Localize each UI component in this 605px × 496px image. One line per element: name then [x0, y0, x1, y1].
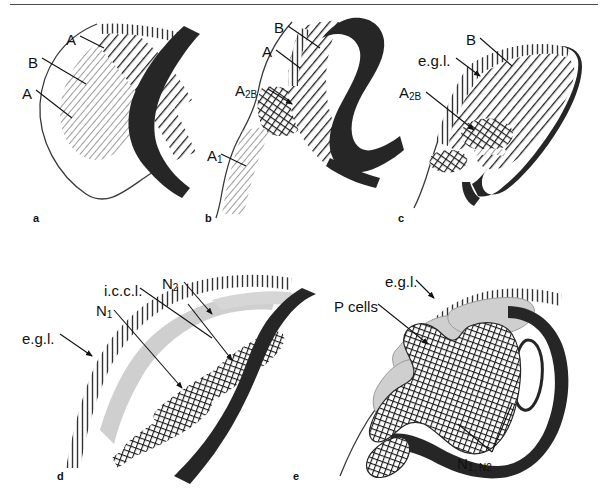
panel-e-cross-n-tail — [367, 437, 410, 477]
panel-letter-d: d — [57, 470, 64, 482]
panel-d-leader-egl — [60, 334, 92, 356]
panel-d-label-N1: N1 — [96, 303, 112, 320]
panel-b-solid-band — [322, 18, 404, 173]
panel-b-label-A: A — [262, 44, 272, 59]
panel-c-cross-a2b — [461, 119, 513, 151]
panel-letter-b: b — [205, 212, 212, 224]
figure-canvas — [0, 0, 605, 496]
panel-d-label-egl: e.g.l. — [22, 331, 55, 346]
panel-e-label-egl: e.g.l. — [385, 274, 418, 289]
panel-a-label-B: B — [28, 55, 38, 70]
panel-e-leader-egl — [416, 280, 434, 298]
panel-d-label-iccl: i.c.c.l. — [104, 283, 142, 298]
panel-b-label-A1: A1 — [207, 148, 223, 165]
panel-letter-a: a — [33, 212, 39, 224]
panel-c-label-A2B: A2B — [399, 85, 421, 102]
panel-e-label-pcells: P cells — [334, 299, 378, 314]
panel-b-label-A2B: A2B — [235, 83, 257, 100]
panel-a — [36, 23, 200, 199]
panel-b — [216, 18, 404, 218]
panel-b-hatch-a1 — [222, 126, 272, 214]
panel-letter-c: c — [398, 212, 404, 224]
panel-c-label-egl: e.g.l. — [418, 53, 451, 68]
panel-letter-e: e — [293, 470, 299, 482]
panel-e-label-N1N2: N1, N2 — [457, 456, 492, 473]
panel-a-label-A-top: A — [66, 32, 76, 47]
panel-d-label-N2: N2 — [162, 276, 178, 293]
panel-c-cross-a2b-lower — [429, 150, 467, 173]
panel-c-label-B: B — [466, 32, 476, 47]
panel-a-label-A-bottom: A — [22, 86, 32, 101]
panel-b-label-B: B — [274, 20, 284, 35]
